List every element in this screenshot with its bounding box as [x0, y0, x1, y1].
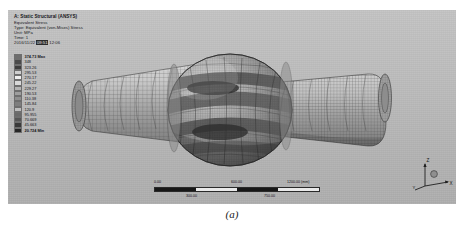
- triad-x-label: X: [450, 181, 453, 186]
- figure-page: A: Static Structural (ANSYS) Equivalent …: [0, 0, 464, 235]
- header-time-highlight: 09:51: [36, 40, 48, 45]
- legend-swatch: [14, 128, 22, 133]
- triad-y-label: Y: [413, 185, 416, 190]
- header-timestamp: 2016/11/22 09:51 12:06: [14, 40, 83, 45]
- scale-tick-sub1: 300.00: [186, 194, 197, 198]
- header-title: A: Static Structural (ANSYS): [14, 14, 83, 20]
- figure-caption: (a): [0, 208, 464, 220]
- scale-tick-mid: 600.00: [231, 180, 242, 184]
- contour-legend[interactable]: 374.73 Max 348 323.26 295.53 270.17 245.…: [14, 54, 62, 133]
- scale-tick-0: 0.00: [154, 180, 161, 184]
- legend-value: 20.724 Min: [25, 128, 45, 133]
- triad-z-label: Z: [427, 158, 430, 163]
- scale-tick-sub2: 750.00: [264, 194, 275, 198]
- scale-tick-max: 1200.00 (mm): [287, 180, 309, 184]
- ansys-viewport[interactable]: A: Static Structural (ANSYS) Equivalent …: [8, 10, 456, 204]
- legend-row: 20.724 Min: [14, 128, 62, 133]
- scale-bar-segment: [155, 188, 196, 191]
- scale-bar: 0.00 600.00 1200.00 (mm) 300.00 750.00: [154, 180, 320, 202]
- scale-bar-segment: [237, 188, 278, 191]
- header-time-suffix: 12:06: [49, 40, 60, 45]
- coordinate-triad-icon: Z X Y: [412, 156, 454, 192]
- scale-bar-track: [154, 187, 320, 192]
- header-date: 2016/11/22: [14, 40, 35, 45]
- result-header: A: Static Structural (ANSYS) Equivalent …: [14, 14, 83, 45]
